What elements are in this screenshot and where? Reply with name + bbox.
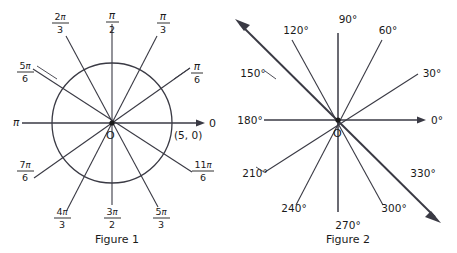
figure-1-svg: 2π 3 π 2 π 3 5π 6 [0, 0, 228, 253]
svg-text:2: 2 [109, 24, 115, 35]
label-seven-pi-over-6: 7π 6 [17, 159, 34, 183]
label-deg-60: 60° [379, 24, 398, 36]
label-five-pi-over-3: 5π 3 [153, 206, 170, 230]
label-deg-120: 120° [283, 24, 308, 36]
label-four-pi-over-3: 4π 3 [54, 206, 71, 230]
svg-text:3: 3 [160, 24, 166, 35]
label-pi-over-2: π 2 [106, 9, 119, 35]
label-deg-0: 0° [431, 114, 443, 126]
label-deg-30: 30° [423, 67, 442, 79]
svg-text:π: π [160, 10, 167, 22]
label-eleven-pi-over-6: 11π 6 [192, 159, 214, 183]
svg-text:π: π [109, 9, 116, 21]
arrowhead-upper-left-icon [235, 19, 250, 31]
svg-text:4π: 4π [56, 206, 68, 217]
svg-text:3: 3 [158, 219, 164, 230]
axis-arrowhead-icon-2 [417, 117, 426, 124]
svg-text:2: 2 [109, 219, 115, 230]
angle-rays [33, 24, 192, 210]
label-zero-angle: 0 [209, 117, 216, 130]
svg-text:5π: 5π [155, 206, 167, 217]
svg-text:5π: 5π [19, 60, 31, 71]
svg-text:3: 3 [59, 219, 65, 230]
label-three-pi-over-2: 3π 2 [104, 206, 121, 230]
figure-1-caption: Figure 1 [95, 233, 139, 246]
angle-rays-2 [265, 40, 418, 205]
label-pi-over-6: π 6 [191, 60, 203, 85]
label-deg-150: 150° [240, 67, 265, 79]
svg-text:6: 6 [22, 73, 28, 84]
label-deg-180: 180° [237, 114, 262, 126]
svg-text:6: 6 [200, 172, 206, 183]
svg-text:6: 6 [194, 74, 200, 85]
svg-text:6: 6 [22, 172, 28, 183]
figure-2: 90° 120° 60° 150° 30° 180° 0° 210° 330° … [228, 0, 457, 253]
figure-2-svg: 90° 120° 60° 150° 30° 180° 0° 210° 330° … [228, 0, 457, 253]
svg-text:11π: 11π [194, 159, 212, 170]
label-deg-330: 330° [410, 167, 435, 179]
origin-dot [109, 120, 114, 125]
figure-2-caption: Figure 2 [326, 233, 370, 246]
arrowhead-lower-right-icon [425, 211, 441, 223]
figure-1: 2π 3 π 2 π 3 5π 6 [0, 0, 228, 253]
label-five-pi-over-6: 5π 6 [17, 60, 34, 84]
label-deg-270: 270° [335, 219, 360, 231]
svg-text:π: π [194, 60, 201, 72]
label-pi-over-3: π 3 [157, 10, 170, 35]
label-leader-lines [37, 66, 190, 79]
label-deg-300: 300° [381, 202, 406, 214]
label-two-pi-over-3: 2π 3 [52, 11, 69, 35]
origin-label-1: O [106, 129, 115, 142]
origin-dot-2 [335, 117, 340, 122]
svg-text:2π: 2π [54, 11, 66, 22]
label-deg-240: 240° [281, 202, 306, 214]
axis-arrowhead-icon [196, 120, 205, 127]
svg-text:7π: 7π [19, 159, 31, 170]
label-pi: π [13, 116, 20, 128]
point-label-5-0: (5, 0) [174, 129, 202, 141]
svg-text:3: 3 [57, 24, 63, 35]
label-deg-210: 210° [242, 167, 267, 179]
svg-text:3π: 3π [106, 206, 118, 217]
origin-label-2: O [333, 127, 342, 140]
figures-container: 2π 3 π 2 π 3 5π 6 [0, 0, 457, 253]
label-deg-90: 90° [339, 13, 358, 25]
